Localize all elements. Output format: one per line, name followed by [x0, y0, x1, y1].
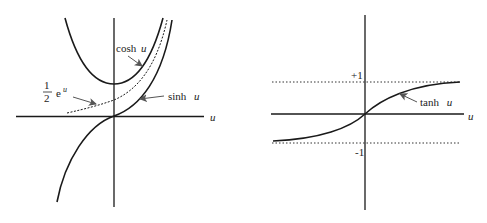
cosh-label: cosh u — [116, 42, 147, 54]
left-graph: u cosh u sinh u 1 2 e u — [16, 18, 216, 207]
half-exp-label: 1 2 e u — [43, 79, 67, 104]
svg-text:2: 2 — [44, 92, 50, 104]
svg-text:1: 1 — [44, 79, 50, 91]
sinh-arrow-icon — [140, 96, 164, 99]
sinh-label: sinh u — [168, 90, 200, 102]
right-x-axis-label: u — [468, 110, 474, 122]
minus-one-label: -1 — [355, 146, 364, 158]
tanh-curve — [273, 82, 460, 141]
left-x-axis-label: u — [210, 111, 216, 123]
half-exp-arrow-icon — [73, 97, 96, 104]
plus-one-label: +1 — [351, 69, 363, 81]
half-exp-curve — [67, 20, 167, 113]
tanh-arrow-icon — [400, 94, 417, 102]
cosh-arrow-icon — [128, 56, 142, 66]
svg-text:e: e — [56, 87, 61, 99]
right-graph: u +1 -1 tanh u — [271, 15, 474, 210]
svg-text:u: u — [63, 85, 67, 94]
tanh-label: tanh u — [420, 96, 453, 108]
hyperbolic-functions-diagram: u cosh u sinh u 1 2 e u u — [0, 0, 487, 223]
